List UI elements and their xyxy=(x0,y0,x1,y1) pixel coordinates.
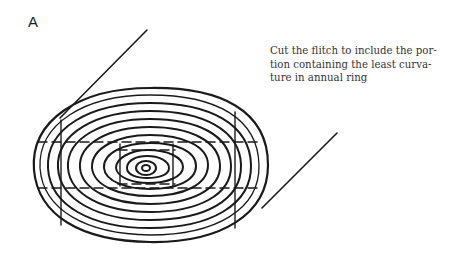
annual-rings xyxy=(34,88,268,242)
diagram-figure: A Cut the flitch to include the por- tio… xyxy=(0,0,474,262)
log-cross-section-drawing xyxy=(0,0,474,262)
lower-tangent-line xyxy=(262,133,337,208)
